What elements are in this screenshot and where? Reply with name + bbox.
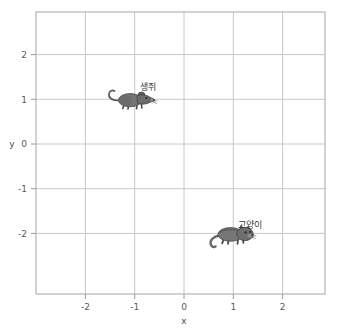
cat-eye-left [244,231,246,233]
scatter-plot-figure: -2 -1 0 1 2 2 1 0 -1 -2 x y [0,0,337,331]
cat-eye-right [249,231,251,233]
mouse-eye [145,97,147,99]
x-axis-ticks [85,294,282,299]
y-axis-title: y [9,139,15,149]
xtick-label-0: 0 [181,302,187,312]
ytick-label-0: 0 [21,139,27,149]
ytick-label--2: -2 [18,229,27,239]
y-axis-ticks [31,55,36,234]
xtick-label-1: 1 [230,302,236,312]
xtick-label-2: 2 [280,302,286,312]
plot-canvas: -2 -1 0 1 2 2 1 0 -1 -2 x y [0,0,337,331]
annotation-label-cat: 고양이 [238,220,262,230]
ytick-label-1: 1 [21,95,27,105]
mouse-haunch [120,95,132,106]
annotation-label-mouse: 생쥐 [140,82,156,92]
xtick-label--1: -1 [130,302,139,312]
xtick-label--2: -2 [81,302,90,312]
x-axis-title: x [181,316,187,326]
ytick-label--1: -1 [18,184,27,194]
ytick-label-2: 2 [21,50,27,60]
cat-front-leg [238,240,239,244]
